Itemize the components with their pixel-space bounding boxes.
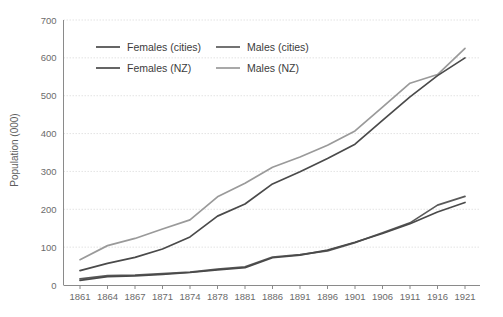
x-axis-tick-label: 1911 (400, 291, 420, 302)
x-axis-tick-label: 1921 (454, 291, 475, 302)
x-axis-tick-label: 1891 (289, 291, 310, 302)
y-axis-tick-label: 0 (51, 280, 56, 291)
x-axis-tick-label: 1896 (317, 291, 338, 302)
y-axis-tick-label: 200 (41, 204, 57, 215)
x-axis-tick-label: 1867 (124, 291, 145, 302)
x-axis-tick-label: 1878 (207, 291, 228, 302)
y-axis-tick-label: 600 (41, 52, 57, 63)
legend-label: Females (NZ) (127, 62, 191, 74)
x-axis-tick-label: 1861 (69, 291, 90, 302)
line-chart: 0100200300400500600700 18611864186718711… (0, 0, 503, 317)
y-axis-tick-label: 700 (41, 15, 57, 26)
x-axis-tick-label: 1901 (344, 291, 365, 302)
x-axis-tick-label: 1874 (179, 291, 200, 302)
x-axis-tick-label: 1881 (234, 291, 255, 302)
x-axis-tick-label: 1906 (372, 291, 393, 302)
x-axis-tick-label: 1871 (152, 291, 173, 302)
legend-label: Males (NZ) (247, 62, 299, 74)
x-axis-tick-label: 1886 (262, 291, 283, 302)
y-axis-tick-label: 400 (41, 128, 57, 139)
y-axis-tick-label: 500 (41, 90, 57, 101)
legend-label: Males (cities) (247, 41, 309, 53)
y-axis-tick-label: 300 (41, 166, 57, 177)
chart-canvas: 0100200300400500600700 18611864186718711… (0, 0, 503, 317)
legend-label: Females (cities) (127, 41, 201, 53)
x-axis-tick-label: 1864 (97, 291, 118, 302)
y-axis-tick-label: 100 (41, 242, 57, 253)
x-axis-tick-label: 1916 (427, 291, 448, 302)
y-axis-title: Population (000) (9, 113, 20, 186)
x-axis-tick-labels: 1861186418671871187418781881188618911896… (69, 291, 475, 302)
